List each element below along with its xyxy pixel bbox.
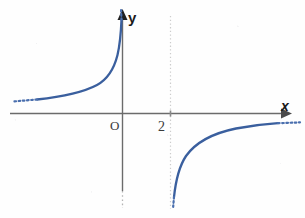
curve-upper-left-branch [37,20,122,100]
origin-label: O [110,119,119,132]
curve-upper-left-dotted-top [121,8,122,20]
y-axis-label: y [128,10,136,25]
curve-lower-right-dotted-tail [278,122,300,123]
curve-lower-right-branch [174,123,278,197]
graph-canvas [0,0,305,218]
x-tick-label-2: 2 [158,120,165,134]
curve-upper-left-dotted-tail [13,100,37,102]
curve-lower-right-dotted-bottom [173,197,174,209]
x-axis-label: x [281,99,289,113]
function-graph-figure: y x O 2 [0,0,305,218]
